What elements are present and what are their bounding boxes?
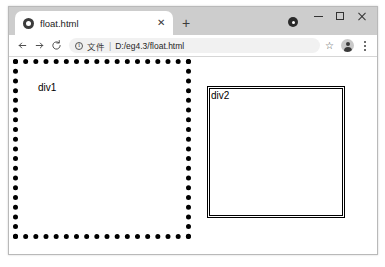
menu-kebab-icon[interactable] bbox=[361, 39, 370, 53]
div2-box: div2 bbox=[207, 86, 345, 218]
tab-search-icon[interactable] bbox=[288, 17, 298, 27]
address-scheme-label: 文件 bbox=[87, 40, 105, 52]
minimize-icon[interactable] bbox=[308, 9, 330, 25]
tab-title: float.html bbox=[40, 18, 155, 29]
div1-box: div1 bbox=[13, 59, 191, 239]
div1-label: div1 bbox=[38, 82, 186, 93]
profile-avatar[interactable] bbox=[341, 39, 354, 52]
back-icon[interactable] bbox=[14, 38, 31, 54]
page-viewport: div1 div2 bbox=[9, 57, 377, 254]
close-window-icon[interactable] bbox=[352, 9, 374, 25]
new-tab-button[interactable]: + bbox=[182, 16, 190, 35]
browser-window: float.html ✕ + bbox=[8, 6, 378, 255]
maximize-icon[interactable] bbox=[330, 9, 352, 25]
globe-favicon bbox=[23, 18, 34, 29]
tab-strip: float.html ✕ + bbox=[9, 7, 377, 35]
site-info-icon[interactable] bbox=[75, 42, 83, 50]
address-bar[interactable]: 文件 | D:/eg4.3/float.html bbox=[69, 38, 320, 53]
address-separator: | bbox=[109, 41, 111, 51]
bookmark-star-icon[interactable]: ☆ bbox=[325, 41, 334, 51]
close-tab-icon[interactable]: ✕ bbox=[155, 18, 167, 28]
window-controls bbox=[308, 9, 374, 25]
address-url-text: D:/eg4.3/float.html bbox=[115, 41, 314, 51]
div2-label: div2 bbox=[211, 90, 342, 101]
browser-tab[interactable]: float.html ✕ bbox=[15, 11, 173, 35]
browser-toolbar: 文件 | D:/eg4.3/float.html ☆ bbox=[9, 35, 377, 57]
reload-icon[interactable] bbox=[48, 38, 65, 54]
forward-icon[interactable] bbox=[31, 38, 48, 54]
